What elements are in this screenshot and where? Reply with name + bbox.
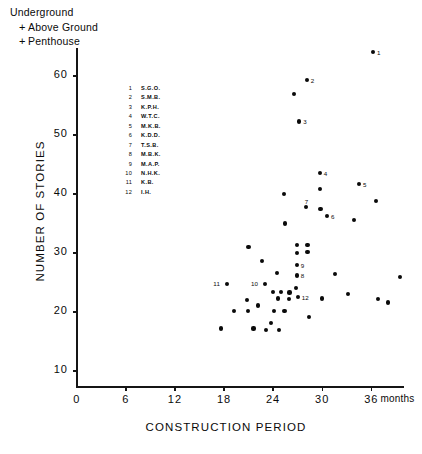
building-key-number: 12 (119, 188, 132, 197)
data-point (276, 296, 280, 300)
building-key-name: M.K.B. (132, 122, 161, 131)
building-key-number: 10 (119, 169, 132, 178)
data-point-label: 1 (377, 49, 381, 56)
building-key-number: 1 (119, 84, 132, 93)
y-axis-tick (73, 252, 77, 253)
building-key-name: S.M.B. (132, 93, 161, 102)
building-key-name: W.T.C. (132, 112, 160, 121)
x-axis-tick (125, 386, 126, 391)
data-point (263, 282, 267, 286)
legend-item-underground: Underground (10, 5, 98, 20)
building-key-name: K.D.D. (132, 131, 160, 140)
data-point (371, 50, 375, 54)
building-key-row: 10N.H.K. (119, 169, 161, 178)
x-axis-tick-label: 24 (253, 393, 293, 405)
x-axis-tick-label: 0 (57, 393, 97, 405)
data-point (352, 218, 356, 222)
building-key-row: 6K.D.D. (119, 131, 161, 140)
y-axis-tick (73, 193, 77, 194)
data-point (219, 326, 223, 330)
x-axis-title: CONSTRUCTION PERIOD (76, 421, 376, 433)
legend-label-penthouse: Penthouse (28, 35, 80, 47)
data-point (275, 271, 279, 275)
building-key-row: 4W.T.C. (119, 112, 161, 121)
building-key-number: 11 (119, 178, 132, 187)
data-point (318, 207, 322, 211)
data-point (292, 92, 296, 96)
data-point (282, 309, 286, 313)
data-point-label: 3 (303, 118, 307, 125)
data-point (333, 272, 337, 276)
building-key-row: 9M.A.P. (119, 160, 161, 169)
data-point (305, 243, 309, 247)
legend-item-penthouse: +Penthouse (10, 34, 98, 49)
building-key-row: 12I.H. (119, 188, 161, 197)
data-point-label: 6 (331, 213, 335, 220)
building-key-number: 6 (119, 131, 132, 140)
data-point (295, 273, 299, 277)
y-axis-line (76, 48, 78, 388)
y-axis-tick (73, 311, 77, 312)
data-point (264, 328, 268, 332)
scatter-plot: Underground +Above Ground +Penthouse 1S.… (0, 0, 422, 454)
building-key-name: S.G.O. (132, 84, 161, 93)
building-key-name: N.H.K. (132, 169, 160, 178)
data-point (376, 297, 380, 301)
data-point-label: 9 (301, 262, 305, 269)
data-point (295, 251, 299, 255)
building-key-name: M.B.K. (132, 150, 161, 159)
building-key-name: K.P.H. (132, 103, 159, 112)
building-key-row: 3K.P.H. (119, 103, 161, 112)
x-axis-unit-label: months (377, 393, 417, 404)
y-axis-tick (73, 75, 77, 76)
x-axis-tick-label: 18 (204, 393, 244, 405)
data-point-label: 11 (213, 280, 220, 287)
building-key-name: K.B. (132, 178, 154, 187)
building-key-number: 3 (119, 103, 132, 112)
legend-item-above-ground: +Above Ground (10, 20, 98, 35)
data-point (260, 259, 264, 263)
y-axis-tick-label: 20 (38, 304, 68, 316)
data-point (318, 171, 322, 175)
building-key-row: 2S.M.B. (119, 93, 161, 102)
x-axis-tick (322, 386, 323, 391)
building-key-row: 7T.S.B. (119, 141, 161, 150)
data-point (386, 300, 390, 304)
data-point (305, 250, 309, 254)
data-point (225, 282, 229, 286)
data-point (245, 298, 249, 302)
building-key-number: 8 (119, 150, 132, 159)
data-point-label: 7 (305, 198, 309, 205)
x-axis-tick-label: 6 (106, 393, 146, 405)
data-point-label: 12 (302, 294, 309, 301)
data-point (318, 187, 322, 191)
data-point (287, 290, 291, 294)
building-key-name: T.S.B. (132, 141, 159, 150)
y-axis-tick-label: 10 (38, 363, 68, 375)
data-point (283, 221, 287, 225)
legend-label-above-ground: Above Ground (28, 21, 98, 33)
data-point (232, 309, 236, 313)
data-point (246, 309, 250, 313)
data-point-label: 10 (251, 280, 258, 287)
data-point (295, 263, 299, 267)
data-point (272, 309, 276, 313)
building-key-name: I.H. (132, 188, 151, 197)
data-point (246, 245, 250, 249)
x-axis-tick (174, 386, 175, 391)
building-key-name: M.A.P. (132, 160, 160, 169)
data-point (346, 292, 350, 296)
data-point-label: 5 (363, 181, 367, 188)
data-point (357, 182, 361, 186)
building-key-row: 5M.K.B. (119, 122, 161, 131)
y-axis-tick (73, 134, 77, 135)
x-axis-tick (371, 386, 372, 391)
building-key-row: 8M.B.K. (119, 150, 161, 159)
legend-label-underground: Underground (10, 6, 74, 18)
data-point (295, 243, 299, 247)
x-axis-tick-label: 30 (302, 393, 342, 405)
data-point (269, 321, 273, 325)
building-key-number: 9 (119, 160, 132, 169)
x-axis-tick (223, 386, 224, 391)
x-axis-tick (272, 386, 273, 391)
